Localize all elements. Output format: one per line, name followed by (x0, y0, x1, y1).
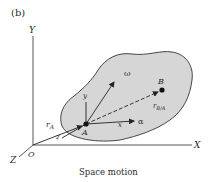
rA-label: rA (46, 120, 55, 130)
Z-axis-label: Z (9, 155, 17, 165)
X-axis-label: X (193, 140, 201, 150)
local-x-label: x (118, 121, 122, 129)
point-A (83, 121, 88, 126)
point-A-label: A (81, 128, 88, 137)
origin-label: O (28, 150, 35, 159)
omega-label: ω (124, 69, 131, 78)
figure-caption: Space motion (79, 167, 138, 177)
point-B (159, 87, 164, 92)
space-motion-diagram: (b) Y X Z O rA z y ω x α rB/A A B Space … (0, 0, 209, 182)
Y-axis-label: Y (29, 25, 36, 35)
local-z-label: z (55, 133, 60, 141)
panel-label: (b) (11, 7, 25, 18)
alpha-label: α (138, 117, 144, 126)
point-B-label: B (157, 77, 164, 86)
